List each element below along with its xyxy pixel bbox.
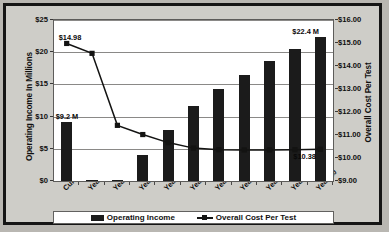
right-axis-tick-label: $11.00 [338, 130, 384, 139]
right-axis-tick-mark [335, 88, 338, 89]
x-axis-tick-mark [129, 182, 130, 185]
x-axis-tick-mark [307, 182, 308, 185]
right-axis-tick-mark [335, 111, 338, 112]
chart-frame: Operating Income In Millions Overall Cos… [3, 3, 382, 225]
plot-area: $14.98$9.2 M$22.4 M$10.38 [53, 19, 334, 182]
x-axis-tick-mark [231, 182, 232, 185]
annotation-current-cost: $14.98 [59, 33, 82, 42]
x-axis-tick-mark [180, 182, 181, 185]
right-axis-tick-label: $13.00 [338, 84, 384, 93]
left-axis-tick-label: $15 [8, 79, 48, 88]
right-axis-tick-label: $9.00 [338, 176, 384, 185]
annotation-current-income: $9.2 M [56, 112, 79, 121]
left-axis-tick-label: $20 [8, 47, 48, 56]
left-axis-tick-label: $0 [8, 176, 48, 185]
left-axis-tick-label: $5 [8, 143, 48, 152]
right-axis-tick-label: $15.00 [338, 38, 384, 47]
cost-line [67, 43, 321, 149]
right-axis-title: Overall Cost Per Test [364, 33, 373, 173]
line-marker [318, 147, 323, 152]
line-series-overall-cost-per-test [54, 20, 333, 181]
annotation-year10-cost: $10.38 [293, 152, 316, 161]
right-axis-tick-mark [335, 180, 338, 181]
right-axis-tick-label: $16.00 [338, 15, 384, 24]
line-marker [89, 51, 94, 56]
right-axis-tick-label: $14.00 [338, 61, 384, 70]
line-marker [242, 147, 247, 152]
right-axis-tick-mark [335, 134, 338, 135]
line-marker [115, 123, 120, 128]
legend-item-overall-cost-per-test: Overall Cost Per Test [197, 213, 296, 222]
x-axis-tick-mark [205, 182, 206, 185]
left-axis-tick-label: $25 [8, 15, 48, 24]
left-axis-tick-label: $10 [8, 111, 48, 120]
x-axis-tick-mark [104, 182, 105, 185]
annotation-year10-income: $22.4 M [292, 27, 319, 36]
legend-label-overall-cost-per-test: Overall Cost Per Test [216, 213, 296, 222]
x-axis-tick-mark [281, 182, 282, 185]
line-marker [166, 140, 171, 145]
right-axis-tick-mark [335, 65, 338, 66]
x-axis-tick-mark [154, 182, 155, 185]
right-axis-tick-label: $12.00 [338, 107, 384, 116]
right-axis-tick-mark [335, 19, 338, 20]
line-square-marker-icon [197, 215, 213, 221]
line-marker [191, 146, 196, 151]
x-axis-tick-mark [332, 182, 333, 185]
right-axis-tick-mark [335, 42, 338, 43]
line-marker [267, 147, 272, 152]
right-axis-tick-mark [335, 157, 338, 158]
bar-swatch-icon [91, 215, 104, 221]
x-axis-tick-mark [78, 182, 79, 185]
legend-label-operating-income: Operating Income [107, 213, 175, 222]
chart-canvas: Operating Income In Millions Overall Cos… [6, 6, 379, 222]
legend-item-operating-income: Operating Income [91, 213, 175, 222]
x-axis-tick-mark [256, 182, 257, 185]
chart-legend: Operating Income Overall Cost Per Test [53, 211, 334, 224]
line-marker [216, 147, 221, 152]
line-marker [140, 132, 145, 137]
right-axis-tick-label: $10.00 [338, 153, 384, 162]
